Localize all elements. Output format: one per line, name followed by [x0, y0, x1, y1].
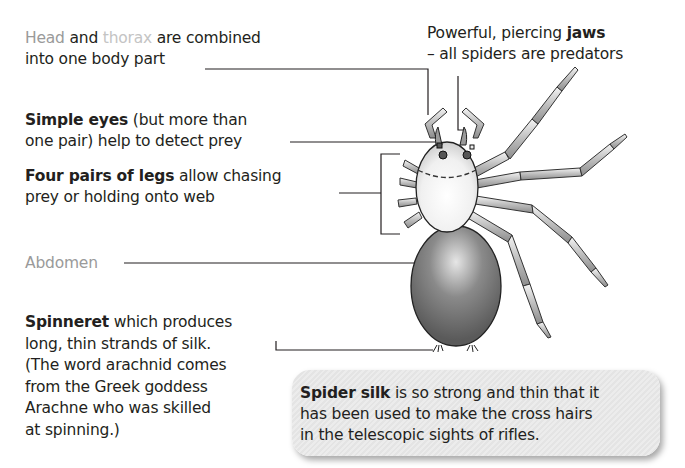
pedipalps — [425, 108, 484, 138]
spider-silk-callout: Spider silk is so strong and thin that i… — [292, 370, 660, 456]
label-eyes: Simple eyes (but more than one pair) hel… — [25, 110, 247, 152]
label-head-thorax: Head and thorax are combined into one bo… — [25, 28, 261, 70]
spinneret-leader — [276, 341, 433, 350]
label-abdomen: Abdomen — [25, 253, 98, 274]
label-legs: Four pairs of legs allow chasing prey or… — [25, 166, 281, 208]
label-spinneret: Spinneret which produces long, thin stra… — [25, 312, 232, 441]
thorax-word: thorax — [103, 29, 152, 47]
label-jaws: Powerful, piercing jaws – all spiders ar… — [427, 23, 623, 65]
legs-bracket — [381, 154, 400, 234]
callout-text: Spider silk is so strong and thin that i… — [300, 383, 599, 446]
head-word: Head — [25, 29, 65, 47]
head-thorax-leader — [205, 69, 428, 115]
jaws-leader — [458, 76, 466, 130]
abdomen — [411, 226, 501, 346]
